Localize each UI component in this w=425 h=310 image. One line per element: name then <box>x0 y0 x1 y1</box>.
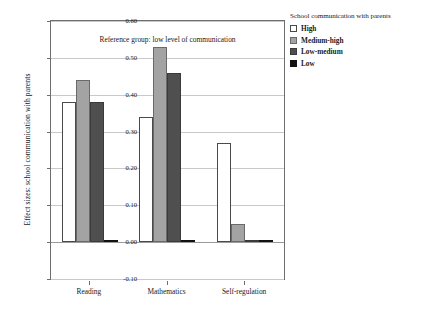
bar-group <box>129 21 207 279</box>
y-axis-tick-label: 0.00 <box>97 238 137 245</box>
bar-group <box>206 21 284 279</box>
legend-title: School communication with parents <box>290 12 423 20</box>
bar <box>90 102 104 242</box>
x-axis-tick-mark <box>167 281 168 285</box>
bar <box>245 240 259 243</box>
y-axis-tick-label: 0.60 <box>97 17 137 24</box>
bar <box>139 117 153 242</box>
legend-item-label: High <box>301 24 316 33</box>
x-axis-tick-label: Self-regulation <box>222 287 266 296</box>
bar <box>76 80 90 242</box>
gridline <box>51 279 284 280</box>
bar <box>153 47 167 242</box>
bar <box>231 224 245 242</box>
y-axis-title: Effect sizes: school communication with … <box>23 40 32 260</box>
legend-item-label: Low-medium <box>301 47 343 56</box>
x-axis: ReadingMathematicsSelf-regulation <box>50 281 285 305</box>
legend-swatch-icon <box>290 60 297 67</box>
legend-item-label: Medium-high <box>301 36 344 45</box>
y-axis-tick-label: 0.50 <box>97 53 137 60</box>
y-axis-tick-label: 0.20 <box>97 164 137 171</box>
legend-item-low-medium[interactable]: Low-medium <box>290 46 423 58</box>
x-axis-tick-mark <box>89 281 90 285</box>
bar <box>167 73 181 243</box>
legend: School communication with parents HighMe… <box>290 12 423 69</box>
legend-items: HighMedium-highLow-mediumLow <box>290 23 423 69</box>
legend-item-low[interactable]: Low <box>290 58 423 70</box>
x-axis-tick-mark <box>244 281 245 285</box>
legend-swatch-icon <box>290 48 297 55</box>
y-axis-tick-label: 0.30 <box>97 127 137 134</box>
legend-item-label: Low <box>301 59 315 68</box>
plot-area: Reference group: low level of communicat… <box>50 20 285 280</box>
y-axis-tick-mark <box>47 279 51 280</box>
y-axis-tick-label: 0.40 <box>97 90 137 97</box>
reference-group-annotation: Reference group: low level of communicat… <box>51 35 284 44</box>
bar <box>62 102 76 242</box>
x-axis-tick-label: Reading <box>77 287 102 296</box>
legend-item-medium-high[interactable]: Medium-high <box>290 35 423 47</box>
bar-series-container <box>51 21 284 279</box>
bar <box>259 240 273 243</box>
bar <box>217 143 231 243</box>
y-axis-tick-label: 0.10 <box>97 201 137 208</box>
bar <box>181 240 195 243</box>
legend-swatch-icon <box>290 37 297 44</box>
x-axis-tick-label: Mathematics <box>147 287 185 296</box>
chart-container: Effect sizes: school communication with … <box>0 0 425 310</box>
legend-swatch-icon <box>290 25 297 32</box>
legend-item-high[interactable]: High <box>290 23 423 35</box>
